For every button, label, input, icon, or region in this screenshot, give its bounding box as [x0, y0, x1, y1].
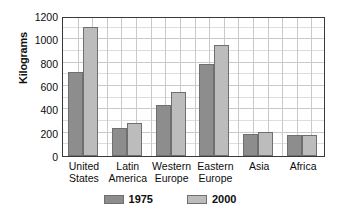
y-axis-tick-label: 1200: [22, 12, 58, 23]
bar-1975: [112, 128, 127, 156]
bar-2000: [214, 45, 229, 156]
gridline-vertical: [282, 18, 283, 156]
bar-1975: [68, 72, 83, 156]
x-axis-label-line: Latin: [116, 160, 139, 172]
y-axis-tick-label: 1000: [22, 35, 58, 46]
gridline-horizontal: [63, 27, 324, 28]
bar-2000: [171, 92, 186, 156]
x-axis-label: Africa: [273, 160, 333, 172]
bar-group: [199, 18, 229, 156]
bar-2000: [258, 132, 273, 157]
x-axis-category-labels: UnitedStatesLatinAmericaWesternEuropeEas…: [62, 160, 325, 192]
bar-1975: [199, 64, 214, 156]
bar-1975: [156, 105, 171, 156]
y-axis-tick-label: 200: [22, 129, 58, 140]
gridline-vertical: [107, 18, 108, 156]
gridline-horizontal: [63, 85, 324, 86]
plot-area: [62, 17, 325, 157]
chart-legend: 19752000: [0, 194, 340, 205]
bar-2000: [302, 135, 317, 156]
legend-label: 1975: [129, 194, 153, 205]
y-axis-tick-label: 0: [22, 152, 58, 163]
legend-item-1975[interactable]: 1975: [104, 194, 153, 205]
gridline-vertical: [195, 18, 196, 156]
bar-group: [287, 18, 317, 156]
bar-group: [156, 18, 186, 156]
y-axis-tick-label: 400: [22, 105, 58, 116]
bar-2000: [127, 123, 142, 156]
legend-label: 2000: [212, 194, 236, 205]
bar-group: [243, 18, 273, 156]
x-axis-label-line: Eastern: [197, 160, 233, 172]
gridline-horizontal: [63, 120, 324, 121]
bar-1975: [287, 135, 302, 156]
gridline-horizontal: [63, 38, 324, 39]
gridline-horizontal: [63, 132, 324, 133]
bar-chart: Kilograms 020040060080010001200 UnitedSt…: [0, 0, 340, 220]
x-axis-label-line: United: [69, 160, 99, 172]
bar-group: [112, 18, 142, 156]
gridline-vertical: [151, 18, 152, 156]
gridline-horizontal: [63, 97, 324, 98]
x-axis-label-line: Europe: [186, 172, 246, 184]
legend-item-2000[interactable]: 2000: [187, 194, 236, 205]
x-axis-label-line: Asia: [249, 160, 269, 172]
gridline-vertical: [238, 18, 239, 156]
bar-2000: [83, 27, 98, 157]
gridline-horizontal: [63, 108, 324, 109]
x-axis-label-line: Africa: [290, 160, 317, 172]
gridline-horizontal: [63, 62, 324, 63]
gridline-horizontal: [63, 73, 324, 74]
bar-1975: [243, 134, 258, 156]
bar-group: [68, 18, 98, 156]
y-axis-tick-label: 600: [22, 82, 58, 93]
y-axis-tick-label: 800: [22, 59, 58, 70]
gridline-horizontal: [63, 50, 324, 51]
legend-swatch: [187, 195, 207, 204]
gridline-horizontal: [63, 143, 324, 144]
legend-swatch: [104, 195, 124, 204]
y-axis-tick-labels: 020040060080010001200: [22, 17, 58, 157]
